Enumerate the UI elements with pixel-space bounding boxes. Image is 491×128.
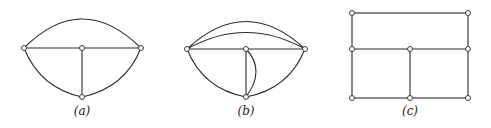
node-bottom-left (350, 96, 355, 101)
caption-c: (c) (402, 104, 418, 118)
node-center (80, 46, 85, 51)
graph-c (350, 11, 471, 101)
edge-right-lower-arc (246, 49, 305, 97)
node-bottom (244, 95, 249, 100)
graph-b (185, 22, 308, 100)
node-right (139, 46, 144, 51)
node-mid-left (350, 47, 355, 52)
node-bottom (80, 95, 85, 100)
node-mid-center (408, 47, 413, 52)
edge-outer-top-arc (187, 22, 305, 50)
edge-left-lower-arc (24, 48, 82, 97)
node-left (185, 47, 190, 52)
node-mid-right (466, 47, 471, 52)
node-right (303, 47, 308, 52)
caption-b: (b) (237, 104, 254, 118)
graph-a (22, 19, 144, 100)
node-bottom-center (408, 96, 413, 101)
node-bottom-right (466, 96, 471, 101)
node-top-left (350, 11, 355, 16)
caption-a: (a) (74, 104, 91, 118)
node-left (22, 46, 27, 51)
edge-top-arc (24, 19, 141, 48)
edge-left-lower-arc (187, 49, 246, 97)
edge-right-lower-arc (82, 48, 141, 97)
node-center (244, 47, 249, 52)
node-top-right (466, 11, 471, 16)
edge-vertical-bulge (246, 49, 256, 97)
